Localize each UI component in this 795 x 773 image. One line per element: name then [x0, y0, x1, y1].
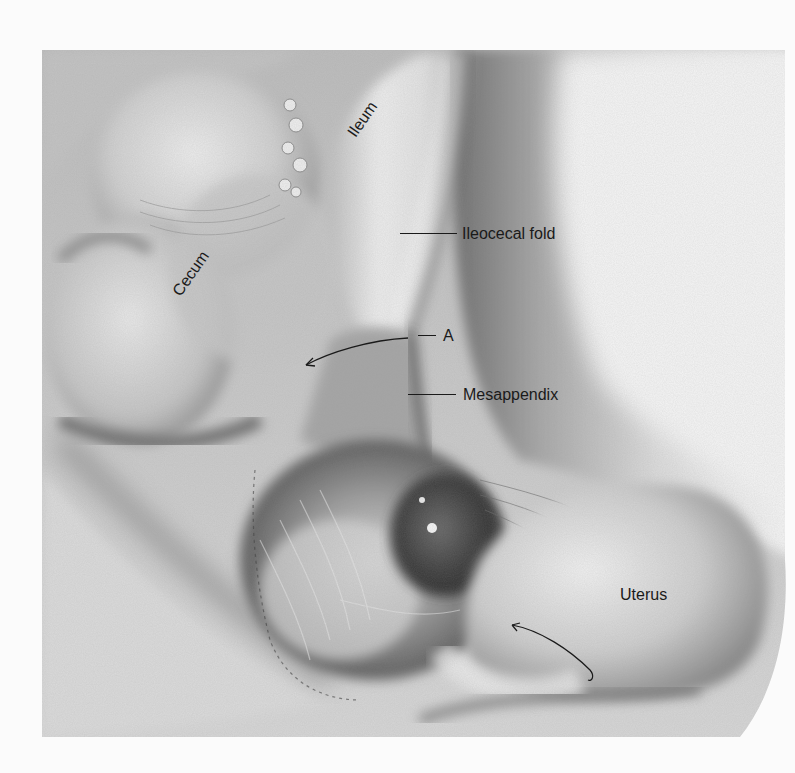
label-ileocecal-fold: Ileocecal fold [462, 226, 555, 242]
leader-line-a [418, 335, 436, 336]
label-mesappendix: Mesappendix [463, 387, 558, 403]
leader-line-mesappendix [408, 394, 456, 395]
anatomical-figure: Ileum Cecum Ileocecal fold A Mesappendix… [0, 0, 795, 773]
label-a: A [443, 328, 454, 344]
label-uterus: Uterus [620, 587, 667, 603]
leader-line-ileocecal-fold [400, 233, 457, 234]
surgical-illustration [0, 0, 795, 773]
